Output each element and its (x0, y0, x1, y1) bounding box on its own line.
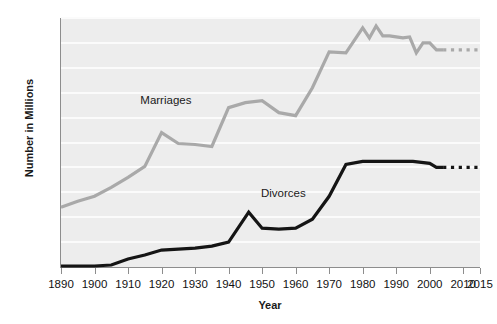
divorces-line (61, 161, 443, 266)
divorces-series-label: Divorces (261, 187, 306, 199)
marriages-series-label: Marriages (140, 94, 191, 106)
series-lines (0, 0, 497, 324)
marriages-divorces-line-chart: Number in Millions .00.25.50.751.01.251.… (0, 0, 497, 324)
x-axis-title: Year (60, 299, 480, 311)
marriages-line (61, 26, 443, 207)
